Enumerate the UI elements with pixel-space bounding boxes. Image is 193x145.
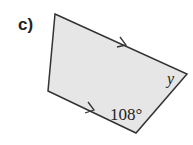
angle-label: 108° (110, 105, 142, 124)
quadrilateral-diagram: c) y 108° (0, 0, 193, 145)
variable-label: y (165, 70, 175, 88)
figure-label: c) (18, 15, 33, 34)
